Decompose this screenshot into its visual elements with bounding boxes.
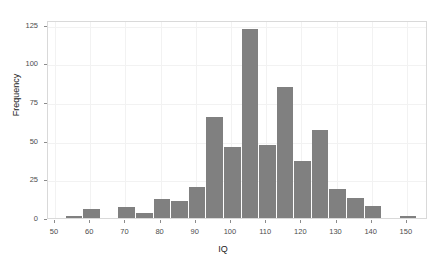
x-tick-label: 110 <box>245 228 285 236</box>
histogram-bar <box>136 213 153 218</box>
histogram-bar <box>66 216 83 218</box>
y-tick-label: 0 <box>0 215 38 223</box>
x-axis-title: IQ <box>0 244 446 254</box>
x-tick-mark <box>89 220 90 223</box>
y-tick-label: 125 <box>0 22 38 30</box>
y-tick-label: 100 <box>0 60 38 68</box>
histogram-bar <box>224 147 241 218</box>
x-tick-label: 130 <box>316 228 356 236</box>
y-tick-mark <box>44 142 47 143</box>
x-tick-mark <box>265 220 266 223</box>
x-tick-mark <box>371 220 372 223</box>
x-tick-label: 90 <box>175 228 215 236</box>
x-tick-mark <box>230 220 231 223</box>
x-tick-label: 100 <box>210 228 250 236</box>
y-tick-mark <box>44 64 47 65</box>
y-tick-mark <box>44 180 47 181</box>
histogram-bar <box>189 187 206 218</box>
y-tick-mark <box>44 103 47 104</box>
histogram-bar <box>347 198 364 218</box>
y-tick-label: 75 <box>0 99 38 107</box>
histogram-bar <box>365 206 382 218</box>
x-tick-mark <box>336 220 337 223</box>
histogram-bar <box>400 216 417 218</box>
x-tick-mark <box>124 220 125 223</box>
histogram-bar <box>294 161 311 218</box>
bars-layer <box>48 22 426 218</box>
histogram-bar <box>312 130 329 218</box>
histogram-bar <box>259 145 276 218</box>
x-tick-mark <box>406 220 407 223</box>
y-tick-label: 25 <box>0 176 38 184</box>
histogram-bar <box>118 207 135 218</box>
x-tick-label: 140 <box>351 228 391 236</box>
x-tick-label: 80 <box>140 228 180 236</box>
histogram-bar <box>83 209 100 218</box>
histogram-bar <box>242 29 259 218</box>
histogram-bar <box>154 199 171 218</box>
x-tick-label: 60 <box>69 228 109 236</box>
histogram-chart: IQ Frequency 025507510012550607080901001… <box>0 0 446 265</box>
histogram-bar <box>171 201 188 218</box>
y-tick-mark <box>44 26 47 27</box>
x-tick-label: 150 <box>386 228 426 236</box>
x-tick-mark <box>160 220 161 223</box>
x-tick-label: 70 <box>104 228 144 236</box>
plot-area <box>47 21 427 219</box>
x-tick-mark <box>195 220 196 223</box>
x-tick-label: 50 <box>34 228 74 236</box>
x-tick-mark <box>54 220 55 223</box>
y-tick-mark <box>44 219 47 220</box>
histogram-bar <box>277 87 294 218</box>
histogram-bar <box>329 189 346 218</box>
y-tick-label: 50 <box>0 138 38 146</box>
histogram-bar <box>206 117 223 218</box>
x-tick-mark <box>300 220 301 223</box>
x-tick-label: 120 <box>280 228 320 236</box>
